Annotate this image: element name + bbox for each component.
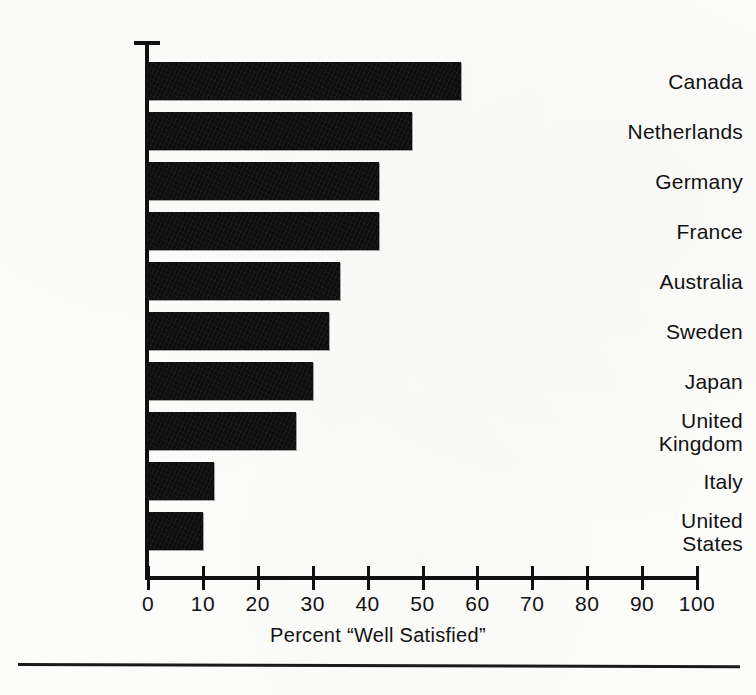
x-axis-tick-100 [696,566,699,590]
category-label-united-kingdom-line2: Kingdom [622,432,743,455]
bar-texture [148,162,379,200]
bar-united-kingdom [148,412,296,450]
bar-texture [148,362,313,400]
bar-netherlands [148,112,412,150]
category-label-sweden: Sweden [622,320,756,344]
bar-canada [148,62,461,100]
bar-texture [148,112,412,150]
category-label-australia: Australia [622,270,756,294]
bar-sweden [148,312,329,350]
bar-australia [148,262,340,300]
bar-texture [148,212,379,250]
x-axis-tick-40 [367,566,370,590]
x-axis-tick-0 [147,566,150,590]
category-label-canada: Canada [622,70,756,94]
bar-texture [148,62,461,100]
bar-france [148,212,379,250]
bar-italy [148,462,214,500]
x-axis-title: Percent “Well Satisfied” [0,624,756,647]
category-label-france: France [622,220,756,244]
bar-texture [148,262,340,300]
x-axis-tick-20 [257,566,260,590]
x-axis-tick-70 [531,566,534,590]
x-axis-tick-60 [476,566,479,590]
bar-germany [148,162,379,200]
bar-texture [148,512,203,550]
bar-chart-plot: 0102030405060708090100 Canada Netherland… [0,0,756,695]
x-axis-tick-50 [422,566,425,590]
category-label-netherlands: Netherlands [622,120,756,144]
x-axis-tick-10 [202,566,205,590]
category-label-germany: Germany [622,170,756,194]
x-axis-tick-label-100: 100 [662,592,732,616]
x-axis-tick-90 [641,566,644,590]
category-label-japan: Japan [622,370,756,394]
category-label-united-kingdom-line1: United [622,409,743,432]
bar-texture [148,412,296,450]
category-label-united-states-line1: United [622,509,743,532]
category-label-united-states: United States [622,509,756,555]
category-label-united-states-line2: States [622,532,743,555]
bar-united-states [148,512,203,550]
bar-texture [148,462,214,500]
x-axis-tick-30 [312,566,315,590]
chart-page: 0102030405060708090100 Canada Netherland… [0,0,756,695]
bar-japan [148,362,313,400]
category-label-united-kingdom: United Kingdom [622,409,756,455]
bar-texture [148,312,329,350]
x-axis-tick-80 [586,566,589,590]
category-label-italy: Italy [622,470,756,494]
